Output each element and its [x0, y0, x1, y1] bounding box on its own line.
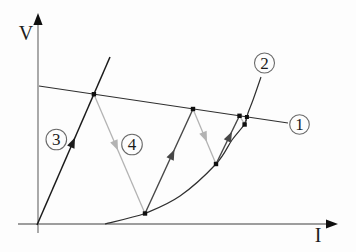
diagram-canvas: V I — [0, 0, 356, 252]
dark-segment-2-arrowhead-icon — [224, 130, 236, 143]
callout-3: 3 — [46, 129, 67, 150]
callout-1: 1 — [290, 115, 310, 135]
callout-3-label: 3 — [52, 130, 61, 149]
y-axis-label: V — [19, 22, 34, 44]
callout-4: 4 — [122, 134, 143, 155]
x-axis-label: I — [315, 224, 322, 246]
point-marker — [92, 92, 96, 96]
dark-segment-1 — [145, 109, 193, 214]
point-marker — [214, 162, 218, 166]
callout-2: 2 — [255, 53, 275, 73]
point-marker — [245, 115, 249, 119]
callout-4-label: 4 — [128, 135, 137, 154]
gray-segment-1-arrowhead-icon — [110, 139, 121, 152]
staircase-gray-segments — [94, 94, 245, 213]
callout-1-label: 1 — [295, 115, 304, 134]
iv-diagram-figure: V I — [0, 0, 356, 252]
staircase-dark-segments — [145, 109, 247, 214]
line-3-arrowhead-icon — [67, 136, 79, 149]
gray-segment-2-arrowhead-icon — [199, 131, 210, 144]
callout-2-label: 2 — [260, 54, 269, 73]
y-axis-arrowhead-icon — [33, 13, 42, 25]
point-marker — [143, 211, 147, 215]
point-marker — [237, 114, 241, 118]
point-marker — [191, 107, 195, 111]
point-marker — [242, 122, 246, 126]
dark-segment-1-arrowhead-icon — [166, 148, 178, 161]
x-axis-arrowhead-icon — [326, 219, 338, 228]
